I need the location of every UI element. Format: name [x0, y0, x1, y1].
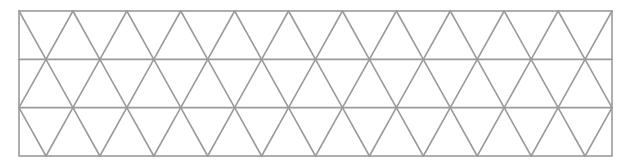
- diagonal-line: [262, 59, 289, 107]
- diagonal-line: [558, 108, 585, 156]
- diagonal-line: [316, 11, 343, 59]
- diagonal-line: [127, 108, 154, 156]
- diagonal-line: [477, 59, 504, 107]
- diagonal-line: [423, 108, 450, 156]
- diagonal-line: [181, 11, 208, 59]
- diagonal-line: [100, 11, 127, 59]
- diagonal-line: [46, 11, 73, 59]
- diagonal-line: [19, 108, 46, 156]
- diagonal-line: [450, 108, 477, 156]
- diagonal-line: [342, 11, 369, 59]
- diagonal-line: [19, 11, 46, 59]
- diagonal-line: [396, 108, 423, 156]
- diagonal-line: [154, 11, 181, 59]
- triangle-grid: [0, 0, 628, 167]
- diagonal-line: [450, 59, 477, 107]
- diagonal-line: [208, 108, 235, 156]
- diagonal-line: [289, 59, 316, 107]
- diagonal-line: [585, 59, 612, 107]
- diagonal-line: [396, 11, 423, 59]
- diagonal-line: [504, 108, 531, 156]
- diagonal-line: [342, 108, 369, 156]
- diagonal-line: [531, 11, 558, 59]
- diagonal-line: [262, 108, 289, 156]
- diagonal-line: [154, 59, 181, 107]
- diagonal-line: [369, 59, 396, 107]
- diagonal-line: [208, 59, 235, 107]
- diagonal-line: [423, 11, 450, 59]
- diagonal-line: [181, 108, 208, 156]
- diagonal-line: [19, 59, 46, 107]
- grid-lines: [19, 11, 612, 156]
- diagonal-line: [342, 59, 369, 107]
- diagonal-line: [73, 11, 100, 59]
- diagonal-line: [100, 59, 127, 107]
- diagonal-line: [531, 59, 558, 107]
- diagonal-line: [262, 11, 289, 59]
- diagonal-line: [396, 59, 423, 107]
- diagonal-line: [316, 59, 343, 107]
- diagonal-line: [477, 108, 504, 156]
- diagonal-line: [46, 108, 73, 156]
- diagonal-line: [46, 59, 73, 107]
- diagonal-line: [127, 59, 154, 107]
- diagonal-line: [369, 11, 396, 59]
- diagonal-line: [531, 108, 558, 156]
- diagonal-line: [504, 11, 531, 59]
- diagonal-line: [100, 108, 127, 156]
- diagonal-line: [585, 108, 612, 156]
- outer-border: [19, 11, 612, 156]
- diagonal-line: [73, 59, 100, 107]
- diagonal-line: [154, 108, 181, 156]
- diagonal-line: [208, 11, 235, 59]
- diagonal-line: [558, 11, 585, 59]
- diagonal-line: [289, 11, 316, 59]
- diagonal-line: [477, 11, 504, 59]
- diagonal-line: [73, 108, 100, 156]
- diagonal-line: [127, 11, 154, 59]
- diagonal-line: [585, 11, 612, 59]
- diagonal-line: [181, 59, 208, 107]
- diagonal-line: [558, 59, 585, 107]
- diagonal-line: [235, 11, 262, 59]
- diagonal-line: [369, 108, 396, 156]
- diagonal-line: [235, 108, 262, 156]
- diagonal-line: [235, 59, 262, 107]
- diagonal-line: [289, 108, 316, 156]
- diagonal-line: [316, 108, 343, 156]
- diagonal-line: [450, 11, 477, 59]
- diagonal-line: [504, 59, 531, 107]
- diagonal-line: [423, 59, 450, 107]
